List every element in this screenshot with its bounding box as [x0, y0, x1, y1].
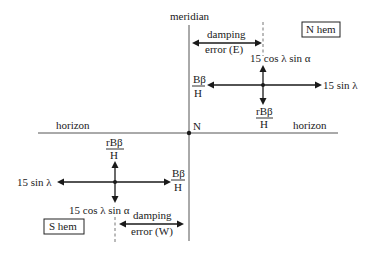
s-arrowhead-up-icon — [112, 161, 119, 168]
s-down-label: 15 cos λ sin α — [69, 204, 130, 216]
n-arrowhead-up-icon — [260, 65, 267, 72]
s-arrowhead-left-icon — [57, 179, 64, 186]
n-down-denominator: H — [260, 118, 268, 130]
n-left-numerator: Bβ — [193, 73, 206, 85]
s-right-denominator: H — [174, 181, 182, 193]
n-left-denominator: H — [194, 87, 202, 99]
n-arrowhead-left-icon — [207, 82, 214, 89]
south-hemisphere-group: rBβ H 15 sin λ Bβ H 15 cos λ sin α dampi… — [17, 136, 185, 243]
s-right-numerator: Bβ — [172, 167, 185, 179]
horizon-left-label: horizon — [56, 119, 90, 131]
origin-label: N — [193, 120, 201, 132]
n-right-label: 15 sin λ — [323, 79, 358, 91]
n-arrowhead-down-icon — [260, 98, 267, 105]
s-up-numerator: rBβ — [106, 136, 123, 148]
s-left-label: 15 sin λ — [17, 176, 52, 188]
s-damping-label-2: error (W) — [131, 225, 173, 238]
n-arrowhead-right-icon — [315, 82, 322, 89]
horizon-right-label: horizon — [293, 119, 327, 131]
north-hemisphere-group: N hem damping error (E) 15 cos λ sin α B… — [192, 22, 358, 130]
s-damping-arrowhead-left-icon — [119, 221, 126, 228]
s-arrowhead-right-icon — [164, 179, 171, 186]
gyro-error-diagram: meridian horizon horizon N N hem damping… — [0, 0, 372, 256]
n-up-label: 15 cos λ sin α — [250, 52, 311, 64]
s-up-denominator: H — [110, 149, 118, 161]
n-down-numerator: rBβ — [256, 105, 273, 117]
s-hem-label: S hem — [49, 220, 77, 232]
n-damping-arrowhead-left-icon — [192, 40, 199, 47]
s-arrowhead-down-icon — [112, 196, 119, 203]
origin-dot — [187, 131, 191, 135]
n-damping-label-1: damping — [207, 28, 246, 40]
n-cross-center — [261, 83, 265, 87]
n-damping-label-2: error (E) — [205, 43, 244, 56]
s-cross-center — [113, 180, 117, 184]
n-hem-label: N hem — [306, 23, 336, 35]
n-damping-arrowhead-right-icon — [255, 40, 262, 47]
meridian-label: meridian — [170, 10, 210, 22]
s-damping-label-1: damping — [133, 209, 172, 221]
s-damping-arrowhead-right-icon — [177, 221, 184, 228]
